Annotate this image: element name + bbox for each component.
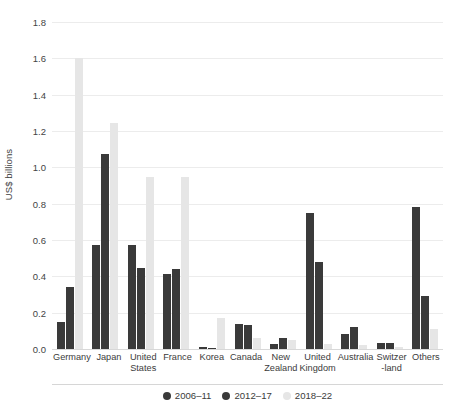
y-axis-tick-label: 1.2 xyxy=(0,126,46,137)
bar-group xyxy=(301,22,337,349)
bar[interactable] xyxy=(66,287,74,349)
x-axis-tick-label-line: Zealand xyxy=(264,363,297,374)
bar[interactable] xyxy=(430,329,438,349)
y-axis-tick-label: 1.0 xyxy=(0,162,46,173)
bar[interactable] xyxy=(253,338,261,349)
x-axis-tick-labels: GermanyJapanUnitedStatesFranceKoreaCanad… xyxy=(52,352,443,374)
x-axis-tick-label: UnitedKingdom xyxy=(298,352,336,374)
x-axis-tick-label-line: United xyxy=(299,352,335,363)
x-axis-tick-label: Others xyxy=(409,352,443,374)
legend-marker-icon xyxy=(222,392,230,400)
bar[interactable] xyxy=(75,58,83,349)
bar[interactable] xyxy=(421,296,429,349)
legend-divider xyxy=(52,384,443,385)
bar-chart: US$ billions 0.00.20.40.60.81.01.21.41.6… xyxy=(0,0,450,414)
legend-label: 2018–22 xyxy=(295,390,332,401)
bar[interactable] xyxy=(110,123,118,349)
legend-marker-icon xyxy=(283,392,291,400)
x-axis-tick-label-line: Japan xyxy=(93,352,125,363)
x-axis-tick-label-line: Australia xyxy=(338,352,374,363)
bar-group xyxy=(88,22,124,349)
x-axis-tick-label-line: Switzer xyxy=(375,352,407,363)
x-axis-tick-label: Australia xyxy=(337,352,375,374)
plot-area xyxy=(52,22,443,349)
legend-item[interactable]: 2006–11 xyxy=(163,390,212,401)
bar-group xyxy=(407,22,443,349)
y-axis-tick-label: 0.8 xyxy=(0,198,46,209)
x-axis-tick-label: Japan xyxy=(92,352,126,374)
bar-group xyxy=(123,22,159,349)
x-axis-tick-label-line: United xyxy=(127,352,159,363)
bar[interactable] xyxy=(288,340,296,349)
bar-group xyxy=(194,22,230,349)
bar[interactable] xyxy=(235,324,243,349)
x-axis-tick-label: Switzer-land xyxy=(374,352,408,374)
x-axis-tick-label-line: New xyxy=(264,352,297,363)
bar-group xyxy=(372,22,408,349)
legend-item[interactable]: 2012–17 xyxy=(222,390,271,401)
bar-groups xyxy=(52,22,443,349)
bar[interactable] xyxy=(359,345,367,349)
y-axis-tick-label: 0.6 xyxy=(0,235,46,246)
x-axis-tick-label-line: Kingdom xyxy=(299,363,335,374)
bar[interactable] xyxy=(137,268,145,349)
bar[interactable] xyxy=(341,334,349,349)
bar[interactable] xyxy=(128,245,136,349)
bar[interactable] xyxy=(350,327,358,349)
legend-label: 2012–17 xyxy=(234,390,271,401)
x-axis-tick-label-line: States xyxy=(127,363,159,374)
bar-group xyxy=(159,22,195,349)
bar[interactable] xyxy=(386,343,394,349)
x-axis-tick-label: UnitedStates xyxy=(126,352,160,374)
y-axis-tick-label: 0.4 xyxy=(0,271,46,282)
bar[interactable] xyxy=(412,207,420,349)
bar[interactable] xyxy=(199,347,207,349)
legend-label: 2006–11 xyxy=(175,390,212,401)
bar[interactable] xyxy=(92,245,100,349)
bar[interactable] xyxy=(181,177,189,349)
y-axis-tick-label: 1.6 xyxy=(0,53,46,64)
bar[interactable] xyxy=(395,347,403,349)
y-axis-tick-label: 0.0 xyxy=(0,344,46,355)
y-axis-tick-label: 1.4 xyxy=(0,89,46,100)
bar[interactable] xyxy=(324,344,332,349)
bar[interactable] xyxy=(306,213,314,349)
bar[interactable] xyxy=(101,154,109,349)
y-axis-tick-label: 0.2 xyxy=(0,307,46,318)
x-axis-tick-label-line: France xyxy=(161,352,193,363)
bar-group xyxy=(230,22,266,349)
legend: 2006–112012–172018–22 xyxy=(52,390,443,401)
gridline xyxy=(52,349,443,350)
bar[interactable] xyxy=(270,344,278,349)
y-axis-tick-label: 1.8 xyxy=(0,17,46,28)
x-axis-tick-label-line: Germany xyxy=(53,352,91,363)
bar[interactable] xyxy=(208,348,216,349)
legend-item[interactable]: 2018–22 xyxy=(283,390,332,401)
x-axis-tick-label-line: Korea xyxy=(196,352,228,363)
bar-group xyxy=(336,22,372,349)
bar-group xyxy=(52,22,88,349)
x-axis-tick-label: Korea xyxy=(195,352,229,374)
x-axis-tick-label-line: Others xyxy=(410,352,442,363)
bar[interactable] xyxy=(172,269,180,349)
bar[interactable] xyxy=(146,177,154,349)
x-axis-tick-label: NewZealand xyxy=(263,352,298,374)
x-axis-tick-label: Canada xyxy=(229,352,263,374)
x-axis-tick-label-line: -land xyxy=(375,363,407,374)
bar[interactable] xyxy=(377,343,385,349)
bar[interactable] xyxy=(244,325,252,349)
bar[interactable] xyxy=(57,322,65,349)
y-axis-title-text: US$ billions xyxy=(4,149,15,200)
bar[interactable] xyxy=(217,318,225,349)
bar[interactable] xyxy=(279,338,287,349)
x-axis-tick-label: Germany xyxy=(52,352,92,374)
bar[interactable] xyxy=(163,274,171,349)
x-axis-tick-label-line: Canada xyxy=(230,352,262,363)
bar[interactable] xyxy=(315,262,323,349)
legend-marker-icon xyxy=(163,392,171,400)
x-axis-tick-label: France xyxy=(160,352,194,374)
bar-group xyxy=(265,22,301,349)
